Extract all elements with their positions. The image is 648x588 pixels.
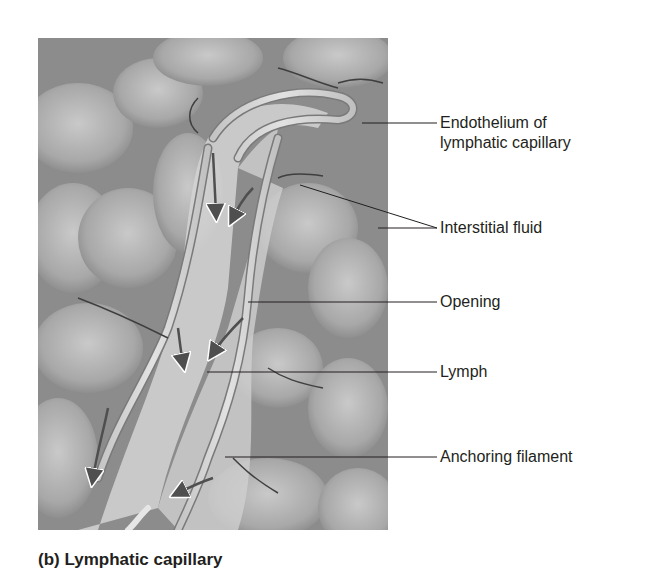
figure-caption: (b) Lymphatic capillary — [38, 550, 223, 570]
label-lymph: Lymph — [440, 362, 487, 382]
lymphatic-capillary-illustration — [38, 38, 388, 530]
label-anchoring-filament: Anchoring filament — [440, 447, 573, 467]
label-endothelium-line2: lymphatic capillary — [440, 133, 571, 153]
label-endothelium-line1: Endothelium of — [440, 113, 571, 133]
label-interstitial-fluid: Interstitial fluid — [440, 218, 542, 238]
label-opening: Opening — [440, 292, 501, 312]
tissue-drawing — [38, 38, 388, 530]
label-endothelium: Endothelium of lymphatic capillary — [440, 113, 571, 153]
